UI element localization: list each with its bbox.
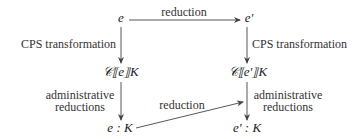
label-left-admin-2: reductions (55, 101, 105, 113)
node-e-colon-k: e : K (107, 122, 132, 134)
label-right-admin-2: reductions (263, 101, 313, 113)
label-left-cps: CPS transformation (21, 38, 116, 50)
node-cps-e: 𝒞⟦e⟧K (103, 66, 138, 78)
label-diag-reduction: reduction (159, 99, 204, 111)
node-e: e (118, 12, 124, 24)
node-e-prime-colon-k: e′ : K (233, 122, 261, 134)
label-top-reduction: reduction (161, 6, 206, 18)
node-e-prime: e′ (245, 12, 254, 24)
label-right-cps: CPS transformation (252, 38, 347, 50)
diagram-edges (0, 0, 364, 139)
node-cps-e-prime: 𝒞⟦e′⟧K (229, 66, 267, 78)
